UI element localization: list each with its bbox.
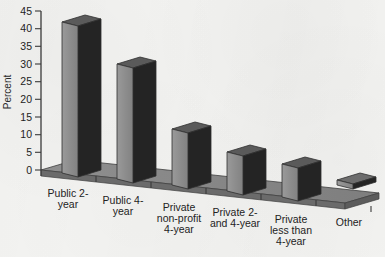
y-tick-label-40: 40 xyxy=(20,22,32,34)
bar-private-less-than-4-year xyxy=(282,157,321,201)
y-tick-label-25: 25 xyxy=(20,75,32,87)
y-axis-ticks xyxy=(35,11,41,170)
x-label-private-less-than-4-year: Private less than 4-year xyxy=(270,213,312,247)
x-label-public-4-year: Public 4- year xyxy=(103,194,144,217)
x-label-other: Other xyxy=(336,216,363,228)
y-tick-label-20: 20 xyxy=(20,93,32,105)
svg-text:4-year: 4-year xyxy=(164,223,194,235)
y-tick-label-35: 35 xyxy=(20,40,32,52)
bar-chart-plot: 0 5 10 15 20 25 30 35 40 45 Percent xyxy=(0,0,385,257)
y-axis-title: Percent xyxy=(2,75,13,110)
svg-text:Other: Other xyxy=(336,216,363,228)
y-tick-label-15: 15 xyxy=(20,111,32,123)
svg-text:year: year xyxy=(58,198,79,210)
bar-public-2-year xyxy=(62,15,101,177)
y-tick-label-10: 10 xyxy=(20,128,32,140)
bar-other xyxy=(337,173,376,189)
figure-container: 0 5 10 15 20 25 30 35 40 45 Percent xyxy=(0,0,385,257)
svg-text:4-year: 4-year xyxy=(276,235,306,247)
y-tick-label-5: 5 xyxy=(26,146,32,158)
svg-text:and 4-year: and 4-year xyxy=(210,217,261,229)
bar-private-2-and-4-year xyxy=(227,145,266,195)
x-label-public-2-year: Public 2- year xyxy=(48,187,89,210)
x-label-private-non-profit-4-year: Private non-profit 4-year xyxy=(157,201,201,235)
y-tick-label-30: 30 xyxy=(20,58,32,70)
bar-public-4-year xyxy=(117,57,156,183)
svg-text:year: year xyxy=(113,205,134,217)
y-tick-label-45: 45 xyxy=(20,5,32,17)
y-tick-label-0: 0 xyxy=(26,164,32,176)
y-axis: 0 5 10 15 20 25 30 35 40 45 Percent xyxy=(2,5,41,176)
bar-private-non-profit-4-year xyxy=(172,122,211,189)
x-label-private-2-and-4-year: Private 2- and 4-year xyxy=(210,206,261,229)
